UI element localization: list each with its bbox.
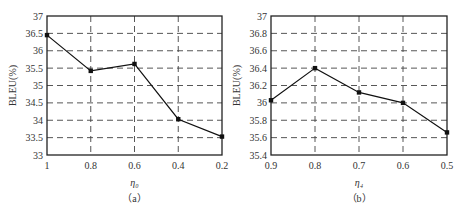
panel-caption: （a）	[122, 193, 146, 204]
y-tick-label: 36.6	[250, 45, 268, 56]
chart-b: 35.435.635.83636.236.436.636.8370.90.80.…	[231, 11, 453, 205]
x-tick-label: 0.4	[172, 160, 185, 171]
y-tick-label: 37	[33, 11, 43, 22]
chart-a: 3333.53434.53535.53636.53710.80.60.40.2η…	[7, 11, 228, 205]
x-axis-label: η₀	[130, 177, 139, 188]
panel-caption: （b）	[347, 193, 372, 204]
x-tick-label: 0.9	[265, 160, 278, 171]
y-tick-label: 34	[33, 115, 43, 126]
y-tick-label: 36	[33, 45, 43, 56]
x-tick-label: 0.5	[441, 160, 454, 171]
y-tick-label: 33.5	[26, 132, 44, 143]
data-point	[132, 62, 136, 66]
y-tick-label: 36.5	[26, 28, 44, 39]
x-tick-label: 0.8	[85, 160, 98, 171]
y-tick-label: 36.4	[250, 63, 268, 74]
data-point	[220, 134, 224, 138]
y-tick-label: 35	[33, 80, 43, 91]
x-tick-label: 0.6	[128, 160, 141, 171]
data-point	[176, 117, 180, 121]
y-tick-label: 35.8	[250, 115, 268, 126]
data-point	[357, 90, 361, 94]
data-point	[401, 101, 405, 105]
y-tick-label: 33	[33, 150, 43, 161]
x-axis-label: η₄	[355, 177, 364, 188]
data-point	[445, 130, 449, 134]
y-axis-label: BLEU(%)	[7, 65, 19, 106]
data-point	[269, 98, 273, 102]
data-point	[89, 69, 93, 73]
y-tick-label: 36.2	[250, 80, 268, 91]
x-tick-label: 0.8	[309, 160, 322, 171]
y-tick-label: 34.5	[26, 97, 44, 108]
y-tick-label: 35.4	[250, 150, 268, 161]
x-tick-label: 1	[45, 160, 50, 171]
x-tick-label: 0.2	[216, 160, 229, 171]
y-tick-label: 37	[257, 11, 267, 22]
figure: 3333.53434.53535.53636.53710.80.60.40.2η…	[0, 0, 461, 210]
y-tick-label: 36.8	[250, 28, 268, 39]
data-point	[313, 66, 317, 70]
y-tick-label: 35.5	[26, 63, 44, 74]
y-tick-label: 35.6	[250, 132, 268, 143]
x-tick-label: 0.6	[397, 160, 410, 171]
data-point	[45, 33, 49, 37]
x-tick-label: 0.7	[353, 160, 366, 171]
y-tick-label: 36	[257, 97, 267, 108]
y-axis-label: BLEU(%)	[231, 65, 243, 106]
